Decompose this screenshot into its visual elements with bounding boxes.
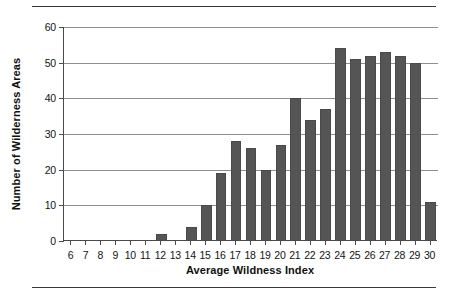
bar-cell [320, 27, 331, 241]
bar-cell [380, 27, 391, 241]
x-tick-label-13: 13 [170, 249, 181, 261]
x-tick-mark-27 [385, 240, 386, 245]
x-tick-label-28: 28 [394, 249, 405, 261]
x-tick-mark-16 [220, 240, 221, 245]
bar-cell [246, 27, 257, 241]
x-tick-label-30: 30 [424, 249, 435, 261]
bar [216, 173, 227, 241]
x-tick-label-23: 23 [319, 249, 330, 261]
y-tick-label-60: 60 [45, 21, 56, 33]
x-tick-mark-24 [340, 240, 341, 245]
x-tick-mark-21 [295, 240, 296, 245]
bar-cell [156, 27, 167, 241]
bar-cell [335, 27, 346, 241]
bar-cell [410, 27, 421, 241]
x-tick-mark-8 [100, 240, 101, 245]
x-tick-mark-10 [130, 240, 131, 245]
chart-figure: Number of Wilderness Areas 0102030405060… [0, 0, 466, 298]
x-tick-mark-15 [205, 240, 206, 245]
x-tick-label-22: 22 [304, 249, 315, 261]
x-tick-label-10: 10 [125, 249, 136, 261]
x-tick-mark-7 [85, 240, 86, 245]
x-tick-label-9: 9 [113, 249, 119, 261]
x-tick-label-15: 15 [200, 249, 211, 261]
bar-cell [395, 27, 406, 241]
bar-cell [305, 27, 316, 241]
bar [410, 63, 421, 241]
x-tick-label-17: 17 [229, 249, 240, 261]
bar [425, 202, 436, 241]
bar-cell [201, 27, 212, 241]
y-tick-label-0: 0 [50, 235, 56, 247]
bar-cell [276, 27, 287, 241]
bar-cell [216, 27, 227, 241]
bar-cell [365, 27, 376, 241]
x-tick-mark-17 [235, 240, 236, 245]
bar [231, 141, 242, 241]
y-tick-label-20: 20 [45, 164, 56, 176]
bars-group [64, 27, 438, 241]
y-axis-title: Number of Wilderness Areas [8, 27, 24, 241]
bar-cell [231, 27, 242, 241]
top-divider-rule [32, 6, 436, 7]
bottom-divider-rule [32, 287, 436, 288]
x-tick-mark-19 [265, 240, 266, 245]
bar-cell [350, 27, 361, 241]
x-tick-mark-22 [310, 240, 311, 245]
x-axis-title: Average Wildness Index [63, 264, 437, 276]
bar [395, 56, 406, 241]
x-tick-label-26: 26 [364, 249, 375, 261]
x-tick-label-27: 27 [379, 249, 390, 261]
x-tick-mark-30 [430, 240, 431, 245]
x-tick-mark-23 [325, 240, 326, 245]
x-tick-mark-11 [145, 240, 146, 245]
bar [320, 109, 331, 241]
y-axis-title-text: Number of Wilderness Areas [10, 58, 22, 210]
y-tick-label-10: 10 [45, 199, 56, 211]
y-tick-label-40: 40 [45, 92, 56, 104]
x-tick-label-11: 11 [140, 249, 150, 261]
x-tick-label-24: 24 [334, 249, 345, 261]
bar [365, 56, 376, 241]
y-tick-mark-0 [59, 241, 64, 242]
x-tick-label-19: 19 [259, 249, 270, 261]
bar [186, 227, 197, 241]
bar [201, 205, 212, 241]
bar [261, 170, 272, 241]
x-tick-label-8: 8 [98, 249, 104, 261]
x-tick-mark-9 [115, 240, 116, 245]
x-tick-mark-20 [280, 240, 281, 245]
x-tick-label-14: 14 [185, 249, 196, 261]
x-tick-mark-6 [70, 240, 71, 245]
x-tick-label-20: 20 [274, 249, 285, 261]
bar [305, 120, 316, 241]
x-tick-label-25: 25 [349, 249, 360, 261]
x-tick-mark-26 [370, 240, 371, 245]
bar-cell [290, 27, 301, 241]
bar [380, 52, 391, 241]
x-tick-mark-18 [250, 240, 251, 245]
x-tick-mark-12 [160, 240, 161, 245]
x-tick-label-18: 18 [244, 249, 255, 261]
x-tick-label-29: 29 [409, 249, 420, 261]
plot-area: 0102030405060 [63, 27, 437, 241]
x-tick-mark-14 [190, 240, 191, 245]
bar [335, 48, 346, 241]
x-tick-label-7: 7 [83, 249, 89, 261]
bar [350, 59, 361, 241]
x-tick-mark-28 [400, 240, 401, 245]
bar [276, 145, 287, 241]
bar-cell [261, 27, 272, 241]
x-tick-mark-29 [415, 240, 416, 245]
bar-cell [425, 27, 436, 241]
bar-cell [186, 27, 197, 241]
x-tick-label-6: 6 [68, 249, 74, 261]
x-tick-label-21: 21 [289, 249, 300, 261]
x-tick-label-16: 16 [215, 249, 226, 261]
y-tick-label-30: 30 [45, 128, 56, 140]
x-tick-mark-13 [175, 240, 176, 245]
x-tick-label-12: 12 [155, 249, 166, 261]
x-tick-mark-25 [355, 240, 356, 245]
bar [290, 98, 301, 241]
y-tick-label-50: 50 [45, 57, 56, 69]
